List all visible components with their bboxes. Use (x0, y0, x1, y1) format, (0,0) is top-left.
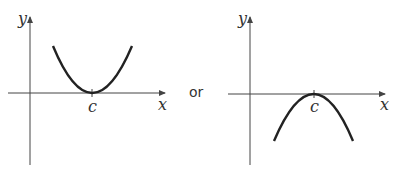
right-graph: y x c (228, 9, 389, 165)
figure: y x c or y x c (0, 0, 399, 172)
right-c-label: c (310, 97, 319, 116)
left-parabola-curve (53, 46, 132, 93)
left-x-label: x (158, 95, 167, 114)
right-x-label: x (380, 95, 389, 114)
left-c-label: c (88, 97, 97, 116)
left-y-label: y (17, 9, 28, 28)
or-connector: or (189, 84, 204, 100)
right-y-label: y (237, 9, 248, 28)
left-graph: y x c (8, 9, 167, 165)
